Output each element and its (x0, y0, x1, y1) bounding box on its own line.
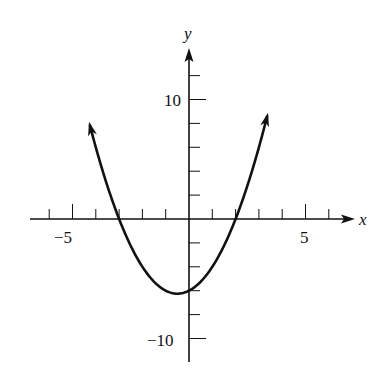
y-tick-label-10: 10 (164, 92, 181, 109)
parabola-plot (0, 0, 384, 369)
x-axis-label: x (359, 211, 367, 228)
x-tick-label-neg5: −5 (54, 229, 72, 246)
curve-arrowheads (88, 113, 269, 137)
y-tick-label-neg10: −10 (147, 332, 174, 349)
parabola-curve (90, 117, 267, 294)
y-axis-label: y (184, 25, 192, 42)
axes (30, 48, 355, 362)
x-tick-label-5: 5 (300, 229, 309, 246)
